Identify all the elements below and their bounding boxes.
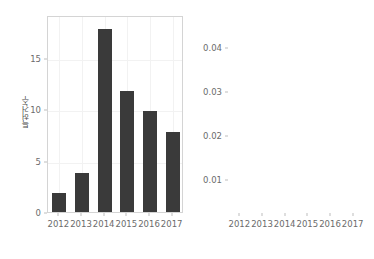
- x-tick-label-right-2017: 2017: [342, 220, 364, 229]
- y-tick-label-right: 0.03: [203, 88, 222, 97]
- bar-2012: [52, 193, 66, 213]
- x-tick-label-left-2017: 2017: [161, 220, 183, 229]
- y-tick-label-right: 0.02: [203, 132, 222, 141]
- x-tick-label-left-2012: 2012: [48, 220, 70, 229]
- gridline-horizontal: [48, 60, 182, 61]
- chart-panel-risk-rate: 위험률 0.010.020.030.04 2012201320142015201…: [187, 0, 374, 259]
- x-tick-label-right-2015: 2015: [297, 220, 319, 229]
- x-tick-mark-left: [81, 213, 82, 216]
- x-tick-label-left-2014: 2014: [93, 220, 115, 229]
- bar-2014: [98, 29, 112, 213]
- x-tick-label-right-2014: 2014: [274, 220, 296, 229]
- bar-2013: [75, 173, 89, 213]
- y-tick-label-left: 10: [30, 106, 41, 115]
- gridline-horizontal: [48, 111, 182, 112]
- y-tick-mark-right: [225, 47, 228, 48]
- y-tick-label-left: 5: [36, 157, 41, 166]
- x-tick-mark-right: [307, 213, 308, 216]
- x-tick-mark-left: [58, 213, 59, 216]
- plot-area-bar: [47, 16, 183, 213]
- bar-2016: [143, 111, 157, 213]
- x-tick-label-right-2013: 2013: [251, 220, 273, 229]
- x-tick-mark-right: [352, 213, 353, 216]
- chart-panel-patent-count: 특허건수 051015 201220132014201520162017: [0, 0, 187, 259]
- bar-2015: [120, 91, 134, 213]
- y-tick-mark-right: [225, 179, 228, 180]
- x-tick-mark-left: [103, 213, 104, 216]
- x-tick-mark-right: [239, 213, 240, 216]
- x-tick-label-left-2013: 2013: [70, 220, 92, 229]
- y-tick-label-left: 15: [30, 55, 41, 64]
- x-tick-mark-right: [330, 213, 331, 216]
- y-tick-mark-right: [225, 135, 228, 136]
- y-tick-label-right: 0.01: [203, 176, 222, 185]
- gridline-vertical: [59, 17, 60, 212]
- gridline-horizontal: [48, 163, 182, 164]
- x-tick-label-right-2016: 2016: [319, 220, 341, 229]
- x-tick-label-left-2015: 2015: [116, 220, 138, 229]
- y-tick-label-left: 0: [36, 209, 41, 218]
- x-tick-mark-left: [171, 213, 172, 216]
- y-tick-mark-right: [225, 91, 228, 92]
- x-tick-label-left-2016: 2016: [138, 220, 160, 229]
- y-axis-title-left: 특허건수: [22, 96, 30, 128]
- x-tick-mark-right: [284, 213, 285, 216]
- y-tick-label-right: 0.04: [203, 43, 222, 52]
- bar-2017: [166, 132, 180, 213]
- x-tick-mark-right: [262, 213, 263, 216]
- figure-two-panel: 특허건수 051015 201220132014201520162017 위험률…: [0, 0, 374, 259]
- x-tick-mark-left: [149, 213, 150, 216]
- x-tick-mark-left: [126, 213, 127, 216]
- x-tick-label-right-2012: 2012: [229, 220, 251, 229]
